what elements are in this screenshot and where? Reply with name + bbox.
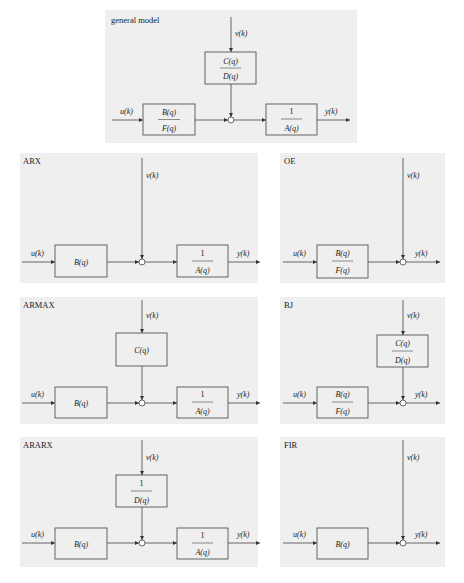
output-block-numerator: 1 bbox=[290, 107, 294, 116]
plant-block: B(q) bbox=[55, 387, 107, 418]
summing-junction bbox=[139, 400, 145, 406]
plant-block: B(q) F(q) bbox=[317, 245, 368, 278]
input-label: u(k) bbox=[31, 249, 44, 258]
panel-arx: ARX v(k) u(k) B(q) 1 A(q) y(k) bbox=[20, 153, 260, 283]
panel-bj: BJ v(k) C(q) D(q) u(k) B(q) F(q) y(k) bbox=[280, 297, 445, 424]
output-label: y(k) bbox=[236, 530, 250, 539]
noise-filter-block: C(q) D(q) bbox=[377, 335, 428, 367]
summing-junction bbox=[400, 400, 406, 406]
noise-label: v(k) bbox=[407, 171, 420, 180]
noise-label: v(k) bbox=[146, 453, 159, 462]
output-label: y(k) bbox=[236, 249, 250, 258]
input-label: u(k) bbox=[293, 249, 306, 258]
plant-numerator: B(q) bbox=[335, 249, 350, 258]
output-label: y(k) bbox=[414, 390, 428, 399]
input-label: u(k) bbox=[293, 390, 306, 399]
input-label: u(k) bbox=[31, 390, 44, 399]
plant-denominator: F(q) bbox=[334, 407, 350, 416]
summing-junction bbox=[139, 540, 145, 546]
plant-block: B(q) bbox=[55, 528, 107, 559]
noise-filter-denominator: D(q) bbox=[133, 496, 149, 505]
panel-title: OE bbox=[284, 156, 295, 166]
panel-title: FIR bbox=[284, 440, 298, 450]
output-block-denominator: A(q) bbox=[194, 407, 210, 416]
summing-junction bbox=[400, 540, 406, 546]
noise-label: v(k) bbox=[235, 29, 248, 38]
plant-block: B(q) bbox=[55, 245, 107, 277]
output-block-numerator: 1 bbox=[201, 390, 205, 399]
output-block-denominator: A(q) bbox=[194, 266, 210, 275]
summing-junction bbox=[139, 259, 145, 265]
noise-filter-label: C(q) bbox=[134, 346, 149, 355]
noise-label: v(k) bbox=[146, 171, 159, 180]
output-block: 1 A(q) bbox=[177, 528, 228, 559]
panel-armax: ARMAX v(k) C(q) u(k) B(q) 1 A(q) y(k) bbox=[20, 297, 260, 424]
output-block: 1 A(q) bbox=[266, 104, 317, 135]
summing-junction bbox=[400, 259, 406, 265]
noise-filter-denominator: D(q) bbox=[394, 356, 410, 365]
output-block: 1 A(q) bbox=[177, 245, 228, 277]
panel-title: general model bbox=[111, 15, 160, 25]
output-label: y(k) bbox=[324, 107, 338, 116]
summing-junction bbox=[228, 117, 234, 123]
plant-block: B(q) bbox=[317, 528, 368, 559]
input-label: u(k) bbox=[120, 107, 133, 116]
panel-title: ARMAX bbox=[23, 300, 55, 310]
plant-label: B(q) bbox=[74, 540, 89, 549]
plant-block: B(q) F(q) bbox=[143, 104, 195, 135]
output-block-denominator: A(q) bbox=[194, 548, 210, 557]
plant-numerator: B(q) bbox=[335, 390, 350, 399]
noise-filter-block: 1 D(q) bbox=[116, 475, 167, 507]
noise-label: v(k) bbox=[407, 311, 420, 320]
noise-filter-denominator: D(q) bbox=[222, 72, 238, 81]
plant-block: B(q) F(q) bbox=[317, 387, 368, 418]
output-label: y(k) bbox=[236, 390, 250, 399]
output-block-denominator: A(q) bbox=[283, 124, 299, 133]
panel-ararx: ARARX v(k) 1 D(q) u(k) B(q) 1 A(q) y(k) bbox=[20, 437, 260, 567]
output-block-numerator: 1 bbox=[201, 249, 205, 258]
output-block: 1 A(q) bbox=[177, 387, 228, 418]
panel-fir: FIR v(k) u(k) B(q) y(k) bbox=[280, 437, 445, 567]
noise-filter-numerator: C(q) bbox=[395, 339, 410, 348]
plant-denominator: F(q) bbox=[161, 124, 177, 133]
input-label: u(k) bbox=[293, 530, 306, 539]
panel-title: ARX bbox=[23, 156, 41, 166]
output-block-numerator: 1 bbox=[201, 531, 205, 540]
plant-label: B(q) bbox=[74, 258, 89, 267]
plant-numerator: B(q) bbox=[162, 108, 177, 117]
plant-label: B(q) bbox=[74, 399, 89, 408]
noise-filter-block: C(q) D(q) bbox=[205, 52, 256, 84]
model-structures-diagram: general model v(k) C(q) D(q) u(k) B(q) F… bbox=[0, 0, 464, 583]
panel-oe: OE v(k) u(k) B(q) F(q) y(k) bbox=[280, 153, 445, 283]
panel-title: BJ bbox=[284, 300, 294, 310]
panel-general-model: general model v(k) C(q) D(q) u(k) B(q) F… bbox=[105, 10, 357, 143]
output-label: y(k) bbox=[414, 249, 428, 258]
noise-label: v(k) bbox=[407, 453, 420, 462]
noise-label: v(k) bbox=[146, 311, 159, 320]
noise-filter-numerator: 1 bbox=[140, 479, 144, 488]
input-label: u(k) bbox=[31, 530, 44, 539]
noise-filter-block: C(q) bbox=[116, 333, 167, 366]
plant-label: B(q) bbox=[335, 540, 350, 549]
noise-filter-numerator: C(q) bbox=[223, 57, 238, 66]
output-label: y(k) bbox=[414, 530, 428, 539]
plant-denominator: F(q) bbox=[334, 266, 350, 275]
panel-title: ARARX bbox=[23, 440, 53, 450]
